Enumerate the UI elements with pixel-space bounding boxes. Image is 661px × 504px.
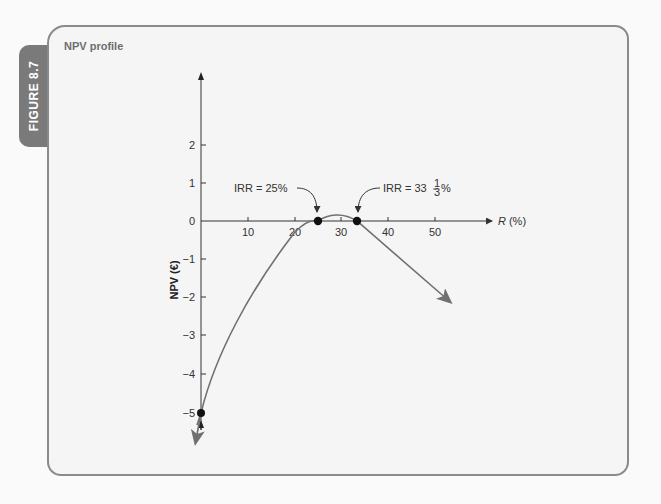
y-tick-neg2: −2: [182, 291, 195, 303]
x-axis-title: R(%): [498, 215, 526, 227]
x-tick-40: 40: [382, 226, 394, 238]
npv-at-zero-point: [197, 409, 205, 417]
y-tick-2: 2: [189, 139, 195, 151]
npv-curve: [196, 215, 448, 440]
y-axis: 2 1 0 −1 −2 −3 −4 −5 NPV (€): [168, 76, 206, 430]
irr-33-main: IRR = 33: [383, 182, 427, 194]
irr-33-annotation: IRR = 33 1 3 %: [358, 177, 451, 212]
irr-33-suffix: %: [441, 182, 451, 194]
irr-33-fraction-den: 3: [434, 186, 440, 198]
x-tick-10: 10: [242, 226, 254, 238]
irr-33-label: IRR = 33: [383, 182, 427, 194]
irr-25-point: [314, 217, 322, 225]
y-tick-neg3: −3: [182, 329, 195, 341]
x-tick-50: 50: [429, 226, 441, 238]
irr-25-label: IRR = 25%: [234, 182, 288, 194]
x-tick-30: 30: [335, 226, 347, 238]
y-axis-title: NPV (€): [168, 260, 180, 299]
y-tick-neg5: −5: [182, 407, 195, 419]
y-tick-neg4: −4: [182, 368, 195, 380]
y-tick-0: 0: [189, 215, 195, 227]
irr-25-annotation: IRR = 25%: [234, 182, 317, 212]
x-axis-unit: (%): [509, 215, 526, 227]
y-tick-1: 1: [189, 177, 195, 189]
x-axis-var: R: [498, 215, 506, 227]
y-tick-neg1: −1: [182, 253, 195, 265]
irr-33-point: [353, 217, 361, 225]
npv-chart: 2 1 0 −1 −2 −3 −4 −5 NPV (€) 10 20 30 40…: [0, 0, 661, 504]
